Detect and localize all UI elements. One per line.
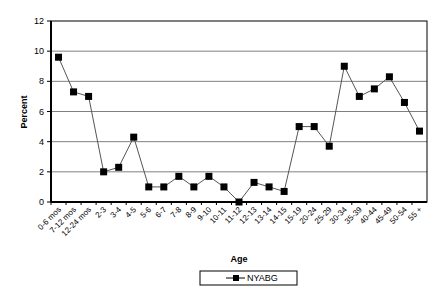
data-point-marker [100, 168, 107, 175]
y-tick-label: 8 [39, 76, 44, 86]
y-tick-label: 10 [34, 46, 44, 56]
data-point-marker [326, 143, 333, 150]
data-point-marker [85, 93, 92, 100]
data-point-marker [416, 128, 423, 135]
data-point-marker [130, 134, 137, 141]
data-point-marker [205, 173, 212, 180]
y-axis-ticks: 024681012 [34, 16, 51, 207]
y-tick-label: 6 [39, 107, 44, 117]
data-point-marker [386, 73, 393, 80]
x-tick-label: 4-5 [124, 205, 139, 220]
data-point-marker [371, 85, 378, 92]
data-point-marker [266, 183, 273, 190]
data-point-marker [115, 164, 122, 171]
legend: NYABG [200, 271, 297, 285]
x-axis-ticks: 0-6 mos7-12 mos12-24 mos2-33-44-55-66-77… [36, 202, 424, 238]
data-point-marker [311, 123, 318, 130]
x-axis-title: Age [230, 254, 247, 264]
y-axis-title: Percent [19, 95, 29, 128]
y-tick-label: 2 [39, 167, 44, 177]
series-line [59, 57, 420, 202]
data-point-marker [190, 183, 197, 190]
x-tick-label: 3-4 [109, 205, 124, 220]
gridlines [51, 51, 427, 172]
y-tick-label: 12 [34, 16, 44, 26]
y-tick-label: 0 [39, 197, 44, 207]
data-point-marker [281, 188, 288, 195]
data-point-marker [55, 54, 62, 61]
data-point-marker [236, 199, 243, 206]
y-tick-label: 4 [39, 137, 44, 147]
data-point-marker [341, 63, 348, 70]
data-point-marker [145, 183, 152, 190]
line-chart: 024681012 0-6 mos7-12 mos12-24 mos2-33-4… [0, 0, 445, 300]
data-point-marker [70, 88, 77, 95]
data-point-marker [175, 173, 182, 180]
x-tick-label: 7-8 [169, 205, 184, 220]
x-tick-label: 6-7 [154, 205, 169, 220]
x-tick-label: 5-6 [139, 205, 154, 220]
series-nyabg [55, 54, 423, 206]
x-tick-label: 2-3 [94, 205, 109, 220]
legend-label: NYABG [247, 273, 278, 283]
data-point-marker [251, 179, 258, 186]
data-point-marker [220, 183, 227, 190]
x-tick-label: 55 + [406, 205, 424, 223]
data-point-marker [401, 99, 408, 106]
data-point-marker [356, 93, 363, 100]
data-point-marker [296, 123, 303, 130]
data-point-marker [160, 183, 167, 190]
legend-marker-icon [233, 275, 239, 281]
